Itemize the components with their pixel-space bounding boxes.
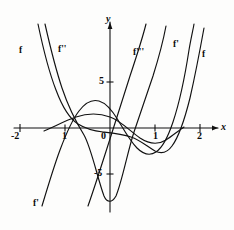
y-tick-label--5: -5 <box>94 168 102 178</box>
y-axis-label: y <box>106 14 110 24</box>
x-axis-arrowhead <box>212 126 218 131</box>
x-tick-label-2: 2 <box>197 131 202 141</box>
label-f-right: f <box>202 50 205 60</box>
label-f-left: f <box>19 46 22 56</box>
label-fppp-right: f''' <box>133 48 144 58</box>
label-fp-bottom: f' <box>33 199 39 209</box>
x-tick-label--1: 1 <box>62 131 67 141</box>
label-fpp-left: f'' <box>58 45 66 55</box>
plot-svg <box>0 0 234 230</box>
x-tick-label--2: -2 <box>11 131 19 141</box>
x-tick-label-1: 1 <box>153 131 158 141</box>
origin-label: 0 <box>101 131 106 141</box>
figure-canvas: f f'' f''' f' f f' y x -2 1 1 2 5 -5 0 <box>0 0 234 230</box>
x-axis-label: x <box>221 122 226 132</box>
y-tick-label-5: 5 <box>99 76 104 86</box>
label-fp-right: f' <box>173 40 179 50</box>
